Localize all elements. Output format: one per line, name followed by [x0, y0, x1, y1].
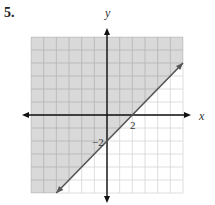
- y-axis-label: y: [104, 6, 111, 20]
- y-intercept-label: −2: [92, 136, 104, 148]
- inequality-graph: y x 2 −2: [0, 0, 215, 205]
- x-axis-label: x: [198, 109, 205, 123]
- x-intercept-label: 2: [130, 119, 136, 131]
